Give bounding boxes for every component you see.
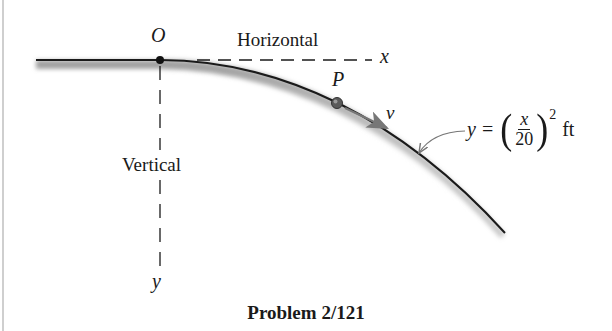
x-axis-label: x: [380, 45, 389, 68]
left-paren: (: [500, 108, 512, 149]
equation-fraction: x 20: [515, 110, 533, 149]
ball-highlight: [334, 100, 338, 104]
figure-caption: Problem 2/121: [0, 302, 612, 324]
velocity-label: v: [386, 102, 394, 124]
ground-shading: [36, 61, 505, 240]
y-axis-label: y: [152, 270, 161, 293]
equation-lhs: y: [467, 118, 476, 141]
right-paren: ): [536, 108, 548, 149]
equation-leader-arrow-icon: [419, 131, 465, 153]
origin-point-icon: [156, 56, 164, 64]
path-equation: y = ( x 20 ) 2 ft: [467, 103, 574, 155]
origin-label: O: [151, 24, 165, 47]
equation-equals: =: [482, 118, 493, 141]
particle-ball-icon: [332, 98, 343, 109]
fraction-denominator: 20: [515, 130, 533, 149]
point-P-label: P: [332, 68, 344, 91]
vertical-label: Vertical: [121, 154, 182, 176]
horizontal-label: Horizontal: [237, 29, 318, 51]
equation-exponent: 2: [549, 107, 556, 123]
fraction-numerator: x: [518, 110, 530, 130]
equation-unit: ft: [562, 118, 574, 141]
